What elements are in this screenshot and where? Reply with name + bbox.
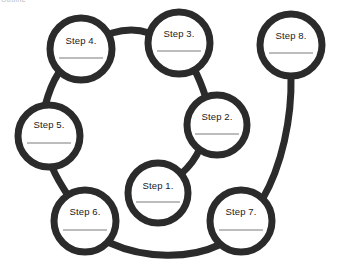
node-label-step-4: Step 4.	[66, 35, 97, 46]
node-label-step-1: Step 1.	[143, 180, 174, 191]
connector-link-8-7	[262, 76, 291, 200]
connector-link-4-5	[45, 74, 58, 106]
node-label-step-8: Step 8.	[276, 30, 307, 41]
node-circle-step-2[interactable]	[187, 95, 247, 155]
node-label-step-7: Step 7.	[226, 206, 257, 217]
node-label-step-2: Step 2.	[202, 111, 233, 122]
node-circle-step-4[interactable]	[50, 18, 112, 80]
node-step-4[interactable]: Step 4.	[50, 18, 112, 80]
connector-link-3-4	[112, 30, 149, 33]
node-step-1[interactable]: Step 1.	[128, 163, 188, 223]
node-circle-step-7[interactable]	[210, 190, 272, 252]
node-label-step-6: Step 6.	[70, 206, 101, 217]
nodes-layer: Step 1.Step 2.Step 3.Step 4.Step 5.Step …	[18, 12, 322, 252]
connector-link-2-3	[194, 69, 206, 98]
node-step-6[interactable]: Step 6.	[54, 190, 116, 252]
node-circle-step-3[interactable]	[148, 12, 210, 74]
node-circle-step-5[interactable]	[18, 105, 80, 167]
cycle-diagram-svg: Step 1.Step 2.Step 3.Step 4.Step 5.Step …	[0, 0, 339, 265]
node-step-5[interactable]: Step 5.	[18, 105, 80, 167]
cycle-diagram-canvas: Outline Step 1.Step 2.Step 3.Step 4.Step…	[0, 0, 339, 265]
node-circle-step-1[interactable]	[128, 163, 188, 223]
node-step-3[interactable]: Step 3.	[148, 12, 210, 74]
node-step-8[interactable]: Step 8.	[260, 14, 322, 76]
node-label-step-5: Step 5.	[34, 119, 65, 130]
node-step-2[interactable]: Step 2.	[187, 95, 247, 155]
connector-link-6-7	[110, 243, 219, 255]
node-circle-step-8[interactable]	[260, 14, 322, 76]
node-circle-step-6[interactable]	[54, 190, 116, 252]
node-step-7[interactable]: Step 7.	[210, 190, 272, 252]
node-label-step-3: Step 3.	[164, 28, 195, 39]
